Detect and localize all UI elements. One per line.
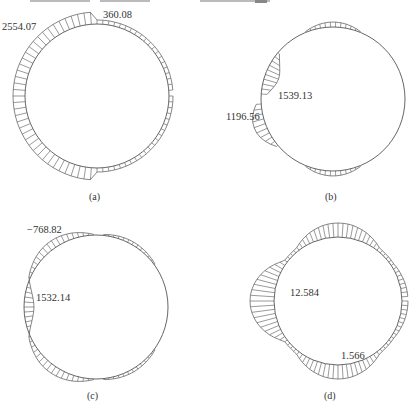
panel-c-diagram [24,233,168,382]
panel-b-upper-label: 1539.13 [278,90,312,101]
panel-c-caption: (c) [87,390,98,402]
panel-c-top-label: −768.82 [27,224,62,235]
panel-d-caption: (d) [324,390,336,402]
panel-d-diagram [250,223,408,379]
panel-a-min-label: 360.08 [103,9,132,20]
panel-a-max-label: 2554.07 [2,21,36,32]
panel-b-diagram [253,22,405,176]
panel-b-caption: (b) [325,191,337,203]
panel-d-lower-right-label: 1.566 [341,350,365,361]
panel-d-left-label: 12.584 [290,287,320,298]
panel-c-left-label: 1532.14 [36,292,71,303]
panel-b-lower-label: 1196.56 [226,111,260,122]
panel-a-diagram [13,12,173,179]
panel-a-caption: (a) [89,191,100,203]
figure-canvas: 360.08 2554.07 1539.13 1196.56 −768.82 1… [0,0,413,408]
cutoff-header [30,0,270,3]
